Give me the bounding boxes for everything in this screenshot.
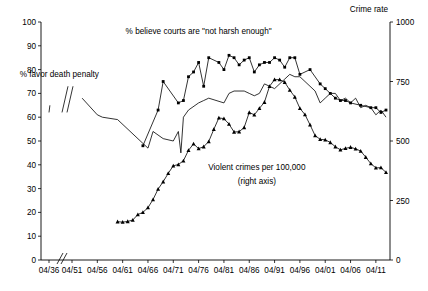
series-marker [334,97,337,100]
series-marker [248,56,251,59]
left-tick-label: 60 [27,113,37,122]
crime-and-opinion-chart: 0102030405060708090100 02505007501000 04… [0,0,428,291]
series-marker [217,61,220,64]
series-marker [223,68,226,71]
series-marker [293,56,296,59]
x-tick-label: 04/76 [188,266,209,275]
violent-crime-label-line2: (right axis) [238,177,276,186]
series-marker [253,71,256,74]
chart-background [0,0,428,291]
series-marker [299,73,302,76]
series-marker [319,82,322,85]
series-marker [142,144,145,147]
series-marker [263,61,266,64]
series-marker [385,109,388,112]
x-tick-label: 04/11 [366,266,386,275]
violent-crime-label-line1: Violent crimes per 100,000 [208,163,306,172]
right-axis-title: Crime rate [350,5,389,14]
series-marker [278,59,281,62]
left-tick-label: 0 [31,256,36,265]
left-tick-label: 30 [27,185,37,194]
x-tick-label: 04/01 [315,266,336,275]
right-tick-label: 1000 [396,18,415,27]
series-marker [374,106,377,109]
series-marker [283,66,286,69]
series-marker [380,111,383,114]
series-marker [162,80,165,83]
right-tick-label: 250 [396,197,410,206]
x-tick-label: 04/06 [340,266,361,275]
courts-harsh-label: % believe courts are "not harsh enough" [126,27,272,36]
series-marker [369,106,372,109]
series-marker [238,63,241,66]
left-tick-label: 50 [27,137,37,146]
series-marker [192,71,195,74]
series-marker [228,54,231,57]
series-marker [187,75,190,78]
x-tick-label: 04/81 [214,266,235,275]
series-marker [182,99,185,102]
x-tick-label: 04/36 [39,266,60,275]
series-marker [324,87,327,90]
left-tick-label: 90 [27,42,37,51]
right-tick-label: 0 [396,256,401,265]
x-tick-label: 04/71 [163,266,184,275]
x-tick-label: 04/56 [87,266,108,275]
series-marker [207,56,210,59]
x-tick-label: 04/61 [112,266,133,275]
left-tick-label: 70 [27,89,37,98]
series-marker [177,102,180,105]
series-marker [258,63,261,66]
x-tick-label: 04/96 [290,266,311,275]
series-marker [197,61,200,64]
left-tick-label: 10 [27,232,37,241]
x-tick-label: 04/66 [138,266,159,275]
series-marker [329,92,332,95]
series-marker [243,59,246,62]
right-tick-label: 500 [396,137,410,146]
series-marker [339,99,342,102]
left-tick-label: 40 [27,161,37,170]
series-marker [309,68,312,71]
left-tick-label: 100 [22,18,36,27]
chart-canvas: 0102030405060708090100 02505007501000 04… [0,0,428,291]
right-tick-label: 750 [396,78,410,87]
series-marker [273,56,276,59]
left-tick-label: 20 [27,208,37,217]
series-marker [268,61,271,64]
x-tick-label: 04/51 [62,266,83,275]
series-marker [202,85,205,88]
series-marker [157,109,160,112]
x-tick-label: 04/91 [264,266,285,275]
series-marker [359,104,362,107]
death-penalty-label: % favor death penalty [20,70,100,79]
x-tick-label: 04/86 [239,266,260,275]
series-marker [288,56,291,59]
series-marker [349,102,352,105]
series-marker [344,99,347,102]
series-marker [233,56,236,59]
